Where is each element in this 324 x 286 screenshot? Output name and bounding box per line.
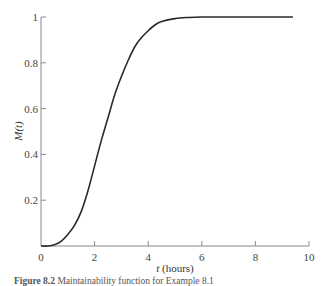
y-tick-label: 0.6 [24, 103, 38, 115]
x-tick-label: 8 [253, 251, 259, 263]
x-tick-label: 4 [145, 251, 151, 263]
x-tick-label: 2 [92, 251, 98, 263]
y-tick-label: 1 [33, 11, 39, 23]
x-tick-label: 6 [199, 251, 205, 263]
x-tick-label: 0 [38, 251, 44, 263]
y-tick-label: 0.8 [24, 57, 38, 69]
axis-ticks: 02468100.20.40.60.81 [24, 11, 315, 263]
x-axis-label: t (hours) [156, 262, 194, 275]
y-tick-label: 0.2 [24, 194, 38, 206]
figure-caption-text: Maintainability function for Example 8.1 [57, 276, 213, 286]
chart: 02468100.20.40.60.81 t (hours) M(t) [0, 0, 324, 286]
figure-caption: Figure 8.2 Maintainability function for … [14, 276, 214, 286]
y-tick-label: 0.4 [24, 148, 38, 160]
figure-caption-label: Figure 8.2 [14, 276, 55, 286]
x-tick-label: 10 [304, 251, 316, 263]
y-axis-label: M(t) [12, 121, 25, 142]
maintainability-curve [41, 17, 293, 246]
